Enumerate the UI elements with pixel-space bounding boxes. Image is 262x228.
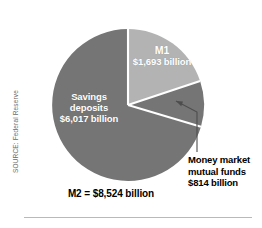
- pie-callout-money-market-value: $814 billion: [188, 177, 262, 189]
- pie-callout-money-market-line2: mutual funds: [188, 166, 262, 178]
- pie-label-m1: M1 $1,693 billion: [130, 44, 194, 68]
- chart-total-label: M2 = $8,524 billion: [38, 188, 184, 199]
- pie-callout-money-market: Money market mutual funds $814 billion: [188, 154, 262, 189]
- pie-label-savings-line2: deposits: [48, 102, 130, 113]
- pie-label-m1-name: M1: [130, 44, 194, 56]
- pie-label-savings-deposits: Savings deposits $6,017 billion: [48, 91, 130, 125]
- pie-chart-figure: M1 $1,693 billion Savings deposits $6,01…: [0, 0, 262, 228]
- pie-label-savings-value: $6,017 billion: [48, 113, 130, 124]
- bottom-divider-rule: [24, 217, 252, 218]
- pie-label-m1-value: $1,693 billion: [130, 56, 194, 67]
- source-attribution: SOURCE: Federal Reserve: [12, 87, 19, 177]
- pie-label-savings-line1: Savings: [48, 91, 130, 102]
- pie-callout-money-market-line1: Money market: [188, 154, 262, 166]
